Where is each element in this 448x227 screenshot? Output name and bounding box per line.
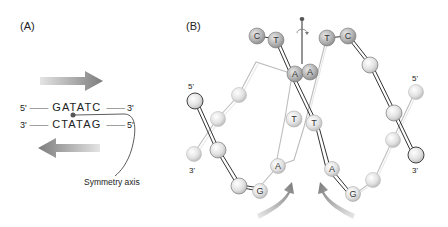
node-5prime-right: [409, 85, 424, 100]
end-label-left-bottom: 3': [189, 166, 195, 175]
dark-strand: [194, 36, 417, 197]
end-label-left-top: 5': [188, 82, 194, 91]
svg-text:C: C: [345, 31, 352, 41]
bottom-strand-bases: CTATAG: [52, 118, 101, 130]
node-3prime-right: [408, 147, 424, 163]
nucleotide-nodes: [187, 28, 425, 202]
svg-text:A: A: [275, 161, 281, 171]
svg-text:G: G: [349, 189, 356, 199]
end-label-right-bottom: 3': [412, 166, 418, 175]
svg-text:T: T: [291, 114, 297, 124]
svg-text:A: A: [307, 67, 313, 77]
bottom-strand-sequence: 3' ~~~~~ CTATAG ~~~~~ 5': [20, 118, 134, 130]
svg-text:A: A: [292, 69, 298, 79]
svg-text:T: T: [324, 33, 330, 43]
svg-text:T: T: [311, 118, 317, 128]
top-strand-bases: GATATC: [52, 101, 101, 113]
top-strand-sequence: 5' ~~~~~ GATATC ~~~~~ 3': [20, 101, 134, 113]
panel-b-label: (B): [186, 20, 201, 32]
left-arrow-icon: [38, 138, 100, 158]
svg-text:G: G: [256, 186, 263, 196]
symmetry-axis-label: Symmetry axis: [84, 177, 140, 187]
node-5prime-left: [187, 93, 203, 109]
svg-text:C: C: [254, 31, 261, 41]
end-label-right-top: 5': [412, 74, 418, 83]
light-strand: [194, 40, 417, 196]
svg-text:T: T: [273, 35, 279, 45]
base-letters: C T T C A A T T A G A G: [254, 31, 357, 199]
diagram-canvas: C T T C A A T T A G A G: [0, 0, 448, 227]
rotation-axis-icon: [297, 17, 309, 64]
svg-text:A: A: [329, 164, 335, 174]
right-arrow-icon: [40, 71, 103, 91]
